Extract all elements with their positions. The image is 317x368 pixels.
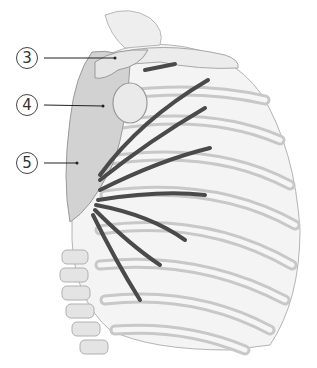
label-3: 3: [16, 47, 38, 69]
leader-dot-5: [76, 162, 79, 165]
humeral-head: [113, 83, 147, 123]
rib-cage-illustration: [0, 0, 317, 368]
label-4: 4: [16, 94, 38, 116]
leader-dot-3: [114, 57, 117, 60]
leader-dot-4: [102, 105, 105, 108]
label-5: 5: [16, 152, 38, 174]
cervical-vertebrae: [105, 11, 161, 48]
